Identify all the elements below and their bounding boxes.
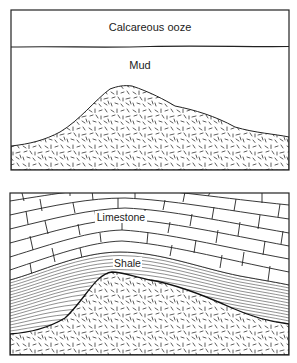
label-calcareous-ooze: Calcareous ooze bbox=[109, 21, 192, 33]
igneous-mound-top bbox=[11, 86, 289, 170]
label-limestone: Limestone bbox=[97, 211, 146, 223]
top-panel bbox=[11, 86, 289, 170]
label-shale: Shale bbox=[114, 257, 141, 269]
ooze-mud-boundary bbox=[11, 46, 289, 47]
bottom-panel bbox=[10, 188, 289, 355]
igneous-mound-bottom bbox=[10, 272, 289, 355]
limestone-layer bbox=[10, 188, 289, 281]
geologic-diagram: Calcareous ooze Mud bbox=[0, 0, 297, 363]
label-mud: Mud bbox=[129, 59, 150, 71]
